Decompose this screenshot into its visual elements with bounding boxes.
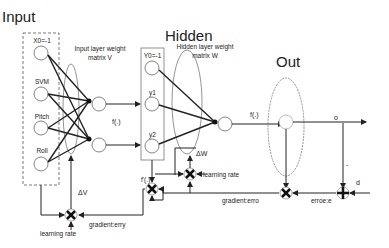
input-label-svm: SVM — [31, 78, 53, 85]
hidden-weight-label-2: matrix W — [165, 52, 245, 59]
hidden-sum-node-2 — [92, 138, 106, 152]
hidden-label-y0: Y0=-1 — [141, 52, 164, 59]
output-node — [279, 115, 293, 129]
gradient-erro-label: gradient:erro — [222, 197, 259, 204]
gradient-erry-label: gradient:erry — [89, 221, 126, 228]
junction-1 — [87, 99, 92, 104]
hidden-weight-lines — [159, 70, 215, 144]
activation-label-2: f(.) — [250, 111, 259, 118]
activation-label-1: f(.) — [112, 118, 121, 125]
hidden-label-y1: y1 — [141, 89, 164, 96]
input-title: Input — [2, 8, 35, 25]
hidden-node-y1 — [145, 97, 159, 111]
input-node-x0 — [34, 46, 48, 60]
hidden-sum-node-1 — [92, 97, 106, 111]
hidden-weight-ellipse — [172, 50, 202, 154]
derivative-label: f'(.) — [141, 176, 150, 183]
output-label-o: o — [334, 114, 338, 121]
input-node-roll — [34, 157, 48, 171]
error-label: erroe:e — [311, 197, 332, 204]
input-node-pitch — [34, 121, 48, 135]
junction-2 — [87, 137, 92, 142]
input-weight-label-1: Input layer weight — [60, 45, 140, 52]
delta-v-label: ΔV — [78, 189, 87, 196]
learning-rate-input-label: learning rate — [40, 230, 76, 237]
hidden-weight-label-1: Hidden layer weight — [165, 43, 245, 50]
hidden-label-y2: y2 — [141, 131, 164, 138]
out-title: Out — [276, 53, 300, 70]
minus-sign: - — [346, 161, 348, 168]
input-label-roll: Roll — [31, 147, 53, 154]
output-sum-node — [218, 117, 232, 131]
input-weight-label-2: matrix V — [60, 54, 140, 61]
input-label-x0: X0=-1 — [31, 37, 53, 44]
desired-label-d: d — [356, 179, 360, 186]
hidden-node-y2 — [145, 139, 159, 153]
input-label-pitch: Pitch — [31, 113, 53, 120]
input-weight-lines — [48, 55, 89, 162]
input-node-svm — [34, 87, 48, 101]
hidden-node-y0 — [145, 61, 159, 75]
delta-w-label: ΔW — [196, 150, 207, 157]
learning-rate-hidden-label: learning rate — [203, 171, 239, 178]
hidden-title: Hidden — [165, 27, 213, 44]
